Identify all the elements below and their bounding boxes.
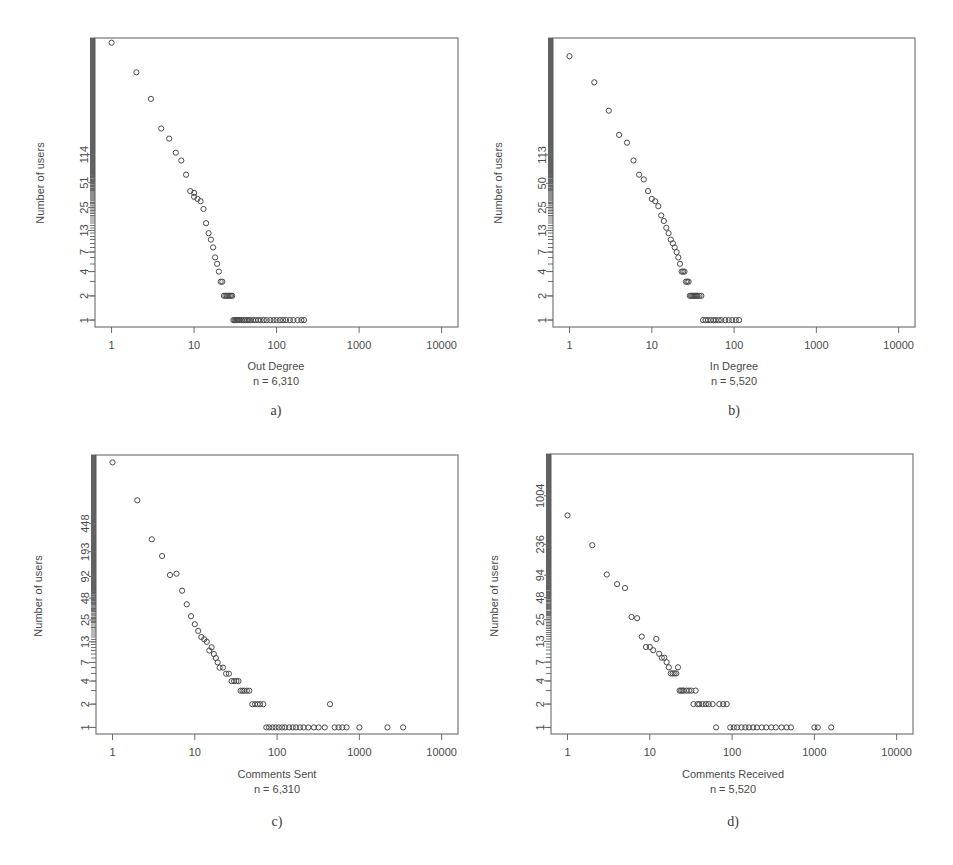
chart-panel-d: 1101001000100001247132548942361004Number… <box>460 418 953 865</box>
data-point <box>160 553 165 558</box>
data-point <box>641 177 646 182</box>
plot-box-a <box>95 38 458 327</box>
y-axis-b: 1247132550113 <box>536 38 553 323</box>
panel-letter-c: c) <box>272 814 283 830</box>
x-tick-label-a-3: 1000 <box>347 339 371 351</box>
data-point <box>659 213 664 218</box>
data-point <box>173 150 178 155</box>
panel-c: 110100100010000124713254892193448Number … <box>0 418 480 865</box>
figure-four-panel-degree-distributions: 1101001000100001247132551114Number of us… <box>0 0 953 865</box>
data-point <box>184 172 189 177</box>
data-point <box>167 136 172 141</box>
y-tick-label-d-7: 94 <box>534 569 546 581</box>
panel-a: 1101001000100001247132551114Number of us… <box>0 0 480 435</box>
x-tick-label-b-0: 1 <box>566 339 572 351</box>
data-point <box>622 585 627 590</box>
data-point <box>829 725 834 730</box>
data-point <box>208 237 213 242</box>
data-point <box>565 513 570 518</box>
y-tick-label-b-7: 113 <box>536 146 548 164</box>
y-tick-label-a-7: 114 <box>78 146 90 164</box>
data-point <box>675 665 680 670</box>
x-tick-label-b-4: 10000 <box>883 339 914 351</box>
data-point <box>215 261 220 266</box>
data-points-b <box>567 54 742 323</box>
y-tick-label-c-4: 13 <box>79 636 91 648</box>
data-point <box>615 582 620 587</box>
data-point <box>815 725 820 730</box>
data-point <box>617 132 622 137</box>
data-point <box>322 725 327 730</box>
data-point <box>656 204 661 209</box>
y-tick-label-d-3: 7 <box>534 659 546 665</box>
y-tick-label-b-4: 13 <box>536 224 548 236</box>
data-point <box>654 636 659 641</box>
plot-box-b <box>553 38 915 327</box>
data-point <box>666 231 671 236</box>
panel-letter-d: d) <box>727 814 739 830</box>
data-point <box>134 70 139 75</box>
data-point <box>167 572 172 577</box>
data-point <box>710 702 715 707</box>
y-tick-label-b-3: 7 <box>536 249 548 255</box>
data-point <box>261 702 266 707</box>
x-axis-title-b: In Degree <box>710 360 758 372</box>
y-axis-title-b: Number of users <box>492 142 504 224</box>
data-point <box>604 572 609 577</box>
data-point <box>629 614 634 619</box>
data-point <box>215 660 220 665</box>
data-point <box>606 108 611 113</box>
x-axis-title-a: Out Degree <box>248 360 305 372</box>
sample-size-label-a: n = 6,310 <box>253 375 299 387</box>
y-tick-label-b-1: 2 <box>536 293 548 299</box>
panel-b: 1101001000100001247132550113Number of us… <box>460 0 953 435</box>
y-tick-label-c-6: 48 <box>79 592 91 604</box>
x-tick-label-d-1: 10 <box>644 746 656 758</box>
chart-panel-c: 110100100010000124713254892193448Number … <box>0 418 480 865</box>
data-point <box>149 537 154 542</box>
data-point <box>159 126 164 131</box>
x-tick-label-a-0: 1 <box>108 339 114 351</box>
data-point <box>639 634 644 639</box>
data-point <box>135 498 140 503</box>
data-point <box>664 660 669 665</box>
data-point <box>645 189 650 194</box>
x-tick-label-c-1: 10 <box>189 746 201 758</box>
x-tick-label-d-2: 100 <box>723 746 741 758</box>
data-point <box>714 725 719 730</box>
y-tick-label-a-2: 4 <box>78 269 90 275</box>
data-point <box>637 172 642 177</box>
y-tick-label-d-5: 25 <box>534 613 546 625</box>
data-points-d <box>565 513 834 730</box>
y-tick-label-d-6: 48 <box>534 592 546 604</box>
y-tick-label-c-8: 193 <box>79 543 91 561</box>
y-tick-label-d-4: 13 <box>534 635 546 647</box>
data-point <box>677 261 682 266</box>
y-tick-label-a-4: 13 <box>78 224 90 236</box>
data-point <box>174 571 179 576</box>
x-axis-b: 110100100010000 <box>566 327 914 351</box>
y-axis-a: 1247132551114 <box>78 38 95 323</box>
y-tick-label-d-0: 1 <box>534 724 546 730</box>
y-tick-label-a-6: 51 <box>78 177 90 189</box>
plot-box-c <box>96 455 458 734</box>
data-point <box>204 221 209 226</box>
data-point <box>385 725 390 730</box>
data-point <box>631 158 636 163</box>
chart-panel-a: 1101001000100001247132551114Number of us… <box>0 0 480 435</box>
y-tick-label-b-6: 50 <box>536 177 548 189</box>
data-point <box>666 665 671 670</box>
y-tick-label-c-7: 92 <box>79 570 91 582</box>
x-axis-title-c: Comments Sent <box>238 768 317 780</box>
x-axis-c: 110100100010000 <box>109 734 457 758</box>
x-axis-title-d: Comments Received <box>682 768 784 780</box>
x-tick-label-d-3: 1000 <box>802 746 826 758</box>
sample-size-label-b: n = 5,520 <box>711 375 757 387</box>
data-point <box>211 245 216 250</box>
data-point <box>196 628 201 633</box>
data-point <box>192 622 197 627</box>
data-point <box>592 80 597 85</box>
y-tick-label-d-9: 1004 <box>534 484 546 508</box>
y-tick-label-a-5: 25 <box>78 201 90 213</box>
x-axis-d: 110100100010000 <box>564 734 912 758</box>
